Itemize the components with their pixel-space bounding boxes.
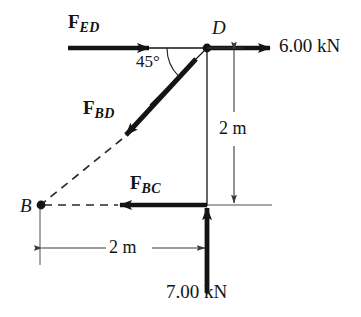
- node-label-d: D: [212, 18, 226, 37]
- joint-dot-b: [37, 201, 46, 210]
- magnitude-label-7kn: 7.00 kN: [166, 282, 227, 301]
- force-label-fbd: FBD: [83, 98, 114, 121]
- force-label-fed: FED: [68, 12, 99, 35]
- magnitude-label-6kn: 6.00 kN: [279, 36, 340, 55]
- force-label-fbc-subscript: BC: [142, 181, 161, 196]
- force-label-fed-symbol: F: [68, 11, 80, 32]
- angle-label-45: 45°: [136, 53, 160, 70]
- dimension-label-horizontal: 2 m: [106, 238, 140, 256]
- dashed-line-bd: [43, 139, 122, 203]
- force-label-fbc-symbol: F: [130, 172, 142, 193]
- node-label-b: B: [20, 196, 32, 215]
- force-label-fbc: FBC: [130, 173, 161, 196]
- angle-arc-45: [167, 48, 179, 76]
- free-body-diagram-figure: FED FBD FBC D B 6.00 kN 7.00 kN 2 m 2 m …: [0, 0, 361, 317]
- force-label-fbd-subscript: BD: [95, 106, 115, 121]
- force-label-fbd-symbol: F: [83, 97, 95, 118]
- force-label-fed-subscript: ED: [80, 20, 100, 35]
- dimension-label-vertical: 2 m: [216, 119, 250, 137]
